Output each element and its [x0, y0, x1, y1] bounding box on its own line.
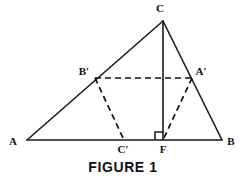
label-A-prime: A′ — [195, 65, 206, 77]
label-C-prime: C′ — [117, 143, 128, 155]
edge-AC — [27, 21, 163, 140]
right-angle-icon — [155, 132, 163, 140]
edge-CB — [163, 21, 222, 140]
figure-caption: FIGURE 1 — [88, 159, 157, 175]
label-B-prime: B′ — [79, 65, 89, 77]
label-A: A — [9, 135, 17, 147]
figure-container: C A B B′ A′ C′ F FIGURE 1 — [0, 0, 246, 178]
label-F: F — [160, 143, 167, 155]
dashed-Aprime-F — [163, 78, 192, 140]
dashed-Bprime-Cprime — [95, 78, 124, 140]
geometry-diagram: C A B B′ A′ C′ F FIGURE 1 — [0, 0, 246, 178]
label-C: C — [156, 2, 164, 14]
label-B: B — [227, 135, 235, 147]
